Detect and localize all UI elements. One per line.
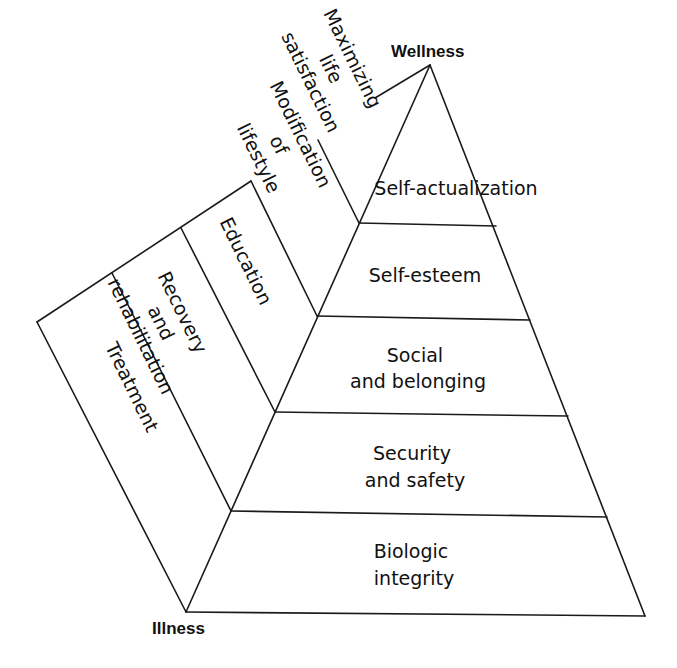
tier-label-line: Social bbox=[387, 344, 443, 366]
tier-label-security-safety: Security and safety bbox=[365, 442, 465, 491]
tier-divider-1 bbox=[359, 223, 496, 226]
tier-label-line: Security bbox=[373, 442, 451, 464]
tier-label-line: and belonging bbox=[350, 370, 486, 392]
tier-label-line: and safety bbox=[365, 469, 465, 491]
tier-label-line: Biologic bbox=[374, 540, 449, 562]
band-labels: Maximizing life satisfaction Modificatio… bbox=[101, 5, 389, 435]
tier-divider-3 bbox=[275, 412, 568, 416]
band-label-line: Education bbox=[216, 214, 277, 309]
wellness-label: Wellness bbox=[391, 42, 464, 61]
side-panel bbox=[37, 65, 430, 612]
tier-label-self-actualization: Self-actualization bbox=[374, 177, 537, 199]
tier-divider-2 bbox=[317, 316, 530, 320]
tier-label-line: Self-actualization bbox=[374, 177, 537, 199]
illness-label: Illness bbox=[152, 619, 205, 638]
tier-label-line: Self-esteem bbox=[369, 264, 481, 286]
tier-labels: Self-actualization Self-esteem Social an… bbox=[350, 177, 538, 589]
tier-label-line: integrity bbox=[374, 567, 454, 589]
tier-label-social-belonging: Social and belonging bbox=[350, 344, 486, 392]
band-label-education: Education bbox=[216, 214, 277, 309]
tier-label-self-esteem: Self-esteem bbox=[369, 264, 481, 286]
pyramid-base bbox=[186, 612, 645, 616]
tier-divider-4 bbox=[231, 511, 607, 517]
tier-label-biologic-integrity: Biologic integrity bbox=[374, 540, 455, 589]
pyramid-right-edge bbox=[430, 65, 645, 616]
wellness-illness-diagram: Wellness Illness Self-actualization Self… bbox=[0, 0, 677, 668]
band-label-line: lifestyle bbox=[233, 120, 285, 197]
